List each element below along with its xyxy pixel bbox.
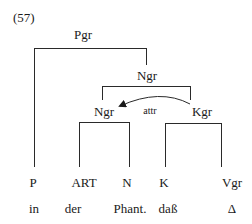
node-ngr-upper: Ngr <box>137 68 158 83</box>
word-dass: daß <box>159 201 178 216</box>
kgr-bracket <box>165 123 222 167</box>
category-p: P <box>29 175 36 190</box>
syntax-tree-diagram: (57) Pgr Ngr Ngr Kgr attr P ART N K Vgr <box>0 0 252 224</box>
word-der: der <box>65 201 82 216</box>
node-pgr: Pgr <box>74 27 93 42</box>
word-in: in <box>29 201 40 216</box>
word-row: in der Phant. daß Δ <box>29 201 236 216</box>
category-vgr: Vgr <box>222 175 243 190</box>
ngr-lower-bracket <box>79 122 130 167</box>
pgr-bracket <box>34 48 147 167</box>
category-row: P ART N K Vgr <box>29 175 242 190</box>
node-kgr: Kgr <box>192 104 213 119</box>
node-ngr-lower: Ngr <box>94 104 115 119</box>
category-n: N <box>122 175 132 190</box>
category-k: K <box>159 175 169 190</box>
word-phant: Phant. <box>114 201 147 216</box>
category-art: ART <box>71 175 96 190</box>
relation-label-attr: attr <box>143 105 157 116</box>
example-number: (57) <box>13 10 35 25</box>
word-delta: Δ <box>228 201 236 216</box>
